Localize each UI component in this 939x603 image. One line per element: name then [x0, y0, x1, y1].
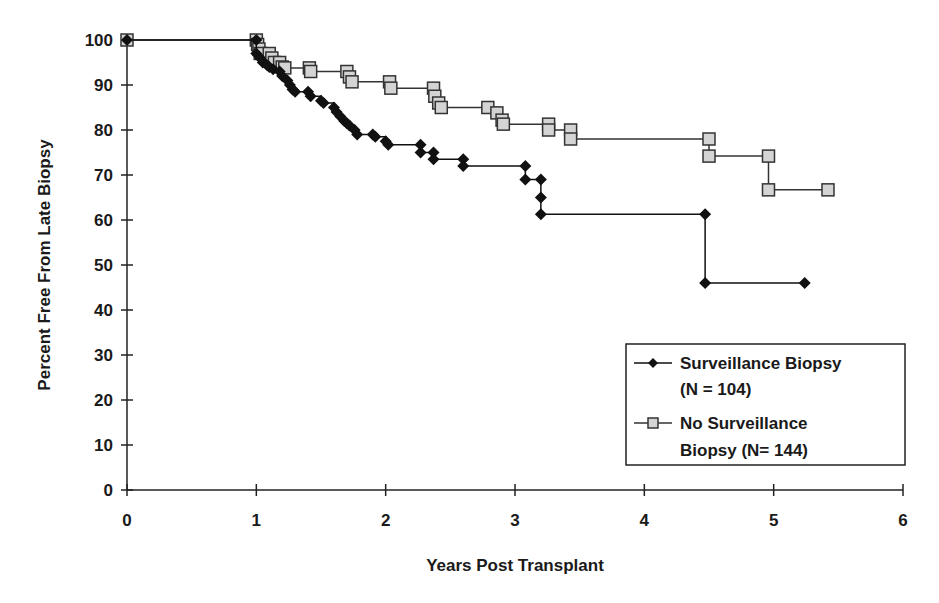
diamond-marker-icon: [799, 277, 811, 289]
series-line: [127, 40, 828, 190]
legend-label-surveillance-line1: Surveillance Biopsy: [680, 354, 842, 373]
y-tick-label: 100: [85, 31, 113, 50]
diamond-marker-icon: [415, 147, 427, 159]
x-axis-title: Years Post Transplant: [426, 556, 604, 575]
diamond-marker-icon: [699, 277, 711, 289]
square-marker-icon: [703, 133, 715, 145]
series-layer: [121, 34, 834, 289]
y-axis-title: Percent Free From Late Biopsy: [35, 139, 54, 391]
legend-label-no-surveillance-line1: No Surveillance: [680, 414, 808, 433]
legend-label-surveillance-line2: (N = 104): [680, 380, 751, 399]
diamond-marker-icon: [535, 208, 547, 220]
square-marker-icon: [762, 184, 774, 196]
diamond-marker-icon: [519, 160, 531, 172]
diamond-marker-icon: [519, 174, 531, 186]
series-no-surveillance: [121, 34, 834, 196]
y-tick-label: 20: [94, 391, 113, 410]
x-tick-label: 3: [510, 511, 519, 530]
legend: Surveillance Biopsy (N = 104) No Surveil…: [626, 344, 905, 465]
square-marker-icon: [565, 133, 577, 145]
square-marker-icon: [762, 150, 774, 162]
square-marker-icon: [305, 66, 317, 78]
y-tick-label: 80: [94, 121, 113, 140]
square-marker-icon: [435, 102, 447, 114]
km-chart: 01020304050607080901000123456 Years Post…: [0, 0, 939, 603]
y-tick-label: 40: [94, 301, 113, 320]
square-marker-icon: [543, 124, 555, 136]
square-marker-icon: [703, 150, 715, 162]
x-tick-label: 2: [381, 511, 390, 530]
square-marker-icon: [648, 418, 658, 428]
square-marker-icon: [346, 76, 358, 88]
diamond-marker-icon: [457, 160, 469, 172]
y-tick-label: 70: [94, 166, 113, 185]
diamond-marker-icon: [428, 153, 440, 165]
diamond-marker-icon: [535, 174, 547, 186]
y-tick-label: 90: [94, 76, 113, 95]
square-marker-icon: [385, 82, 397, 94]
diamond-marker-icon: [535, 192, 547, 204]
x-tick-label: 4: [640, 511, 650, 530]
y-tick-label: 50: [94, 256, 113, 275]
legend-label-no-surveillance-line2: Biopsy (N= 144): [680, 441, 808, 460]
y-tick-label: 10: [94, 436, 113, 455]
diamond-marker-icon: [699, 208, 711, 220]
square-marker-icon: [497, 118, 509, 130]
x-tick-label: 1: [252, 511, 261, 530]
x-tick-label: 5: [769, 511, 778, 530]
y-tick-label: 60: [94, 211, 113, 230]
x-tick-label: 0: [122, 511, 131, 530]
y-tick-label: 30: [94, 346, 113, 365]
x-tick-label: 6: [898, 511, 907, 530]
y-tick-label: 0: [104, 481, 113, 500]
square-marker-icon: [822, 184, 834, 196]
